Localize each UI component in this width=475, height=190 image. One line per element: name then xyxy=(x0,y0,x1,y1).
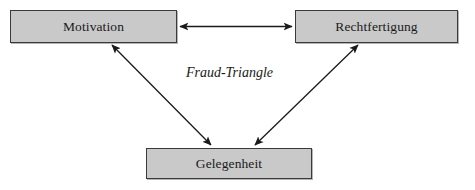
edge-gelegenheit-rechtfertigung xyxy=(255,45,358,145)
diagram-caption-text: Fraud-Triangle xyxy=(186,65,273,80)
node-rechtfertigung-label: Rechtfertigung xyxy=(335,20,417,34)
fraud-triangle-diagram: Motivation Rechtfertigung Gelegenheit Fr… xyxy=(0,0,475,190)
node-gelegenheit-label: Gelegenheit xyxy=(196,157,262,171)
node-motivation: Motivation xyxy=(10,10,177,43)
node-motivation-label: Motivation xyxy=(63,20,124,34)
node-gelegenheit: Gelegenheit xyxy=(146,148,312,179)
edge-motivation-gelegenheit xyxy=(112,45,211,145)
node-rechtfertigung: Rechtfertigung xyxy=(295,10,458,43)
diagram-caption: Fraud-Triangle xyxy=(0,65,475,81)
